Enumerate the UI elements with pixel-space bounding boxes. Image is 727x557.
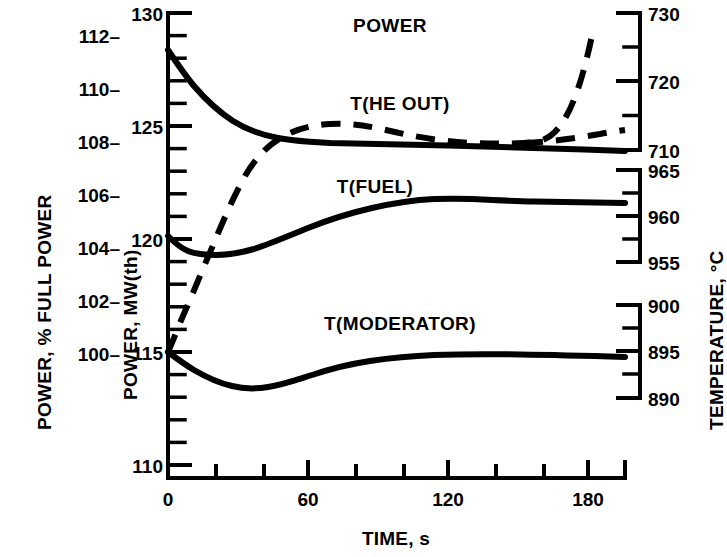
power-label: POWER [353, 15, 427, 36]
percent-tick-110: 110– [40, 79, 120, 101]
left-inner-axis-title: POWER, MW(th) [120, 249, 142, 400]
temperature-axis-segment-fuel [618, 170, 640, 262]
time-tick-60: 60 [297, 489, 318, 510]
percent-tick-108: 108– [40, 132, 120, 154]
percent-tick-102: 102– [40, 291, 120, 313]
temp-tick-890: 890 [648, 389, 680, 410]
percent-tick-100: 100– [40, 344, 120, 366]
percent-tick-104: 104– [40, 238, 120, 260]
chart-figure: POWER, % FULL POWER POWER, MW(th) TEMPER… [0, 0, 727, 557]
percent-tick-112: 112– [40, 26, 120, 48]
he-out-label: T(HE OUT) [350, 93, 450, 114]
temp-tick-960: 960 [648, 207, 680, 228]
mw-tick-125: 125 [131, 117, 163, 138]
temp-tick-710: 710 [648, 141, 680, 162]
mw-tick-120: 120 [131, 230, 163, 251]
fuel-label: T(FUEL) [337, 176, 414, 197]
temp-tick-720: 720 [648, 72, 680, 93]
temp-tick-895: 895 [648, 342, 680, 363]
percent-tick-106: 106– [40, 185, 120, 207]
temp-tick-900: 900 [648, 296, 680, 317]
time-tick-120: 120 [432, 489, 464, 510]
mw-tick-130: 130 [131, 4, 163, 25]
time-axis [168, 462, 625, 478]
time-tick-0: 0 [163, 489, 174, 510]
series-fuel-curve [168, 199, 625, 255]
temperature-axis-segment-moderator [618, 305, 640, 398]
temp-tick-955: 955 [648, 253, 680, 274]
temp-tick-965: 965 [648, 161, 680, 182]
time-tick-180: 180 [572, 489, 604, 510]
temp-tick-730: 730 [648, 4, 680, 25]
right-axis-title: TEMPERATURE, °C [706, 250, 727, 430]
series-moderator-curve [168, 352, 625, 388]
x-axis-title: TIME, s [362, 528, 430, 549]
moderator-label: T(MODERATOR) [324, 313, 476, 334]
mw-tick-110: 110 [132, 456, 163, 477]
